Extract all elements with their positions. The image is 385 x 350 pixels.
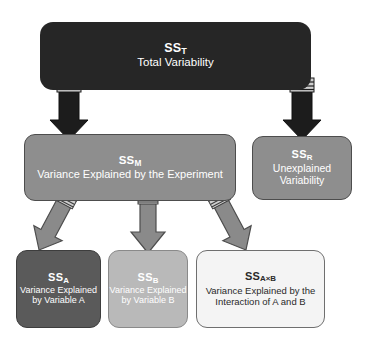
node-factor-a-symbol: SSA (48, 272, 69, 284)
sums-of-squares-diagram: SST Total Variability SSM Variance Expla… (0, 0, 385, 350)
node-interaction-label: Variance Explained by the Interaction of… (197, 285, 324, 307)
node-total-label: Total Variability (137, 56, 214, 70)
node-interaction-ab: SSA×B Variance Explained by the Interact… (196, 250, 325, 328)
node-residual-variance: SSR Unexplained Variability (252, 136, 352, 200)
node-factor-b-label: Variance Explained by Variable B (109, 285, 187, 306)
node-residual-symbol: SSR (292, 149, 313, 161)
node-total-variability: SST Total Variability (40, 22, 311, 90)
arrow-total-to-residual (283, 92, 321, 140)
node-factor-a-label: Variance Explained by Variable A (17, 285, 100, 306)
node-interaction-symbol: SSA×B (245, 271, 276, 283)
node-total-symbol: SST (164, 42, 187, 55)
node-factor-b: SSB Variance Explained by Variable B (108, 250, 188, 328)
node-factor-a: SSA Variance Explained by Variable A (16, 250, 101, 328)
node-model-symbol: SSM (119, 154, 142, 167)
node-factor-b-symbol: SSB (138, 272, 159, 284)
node-model-label: Variance Explained by the Experiment (37, 168, 223, 181)
node-residual-label: Unexplained Variability (253, 162, 351, 187)
arrow-model-to-factor-b (131, 203, 165, 253)
arrow-total-to-model (50, 92, 88, 140)
node-model-variance: SSM Variance Explained by the Experiment (24, 134, 236, 201)
